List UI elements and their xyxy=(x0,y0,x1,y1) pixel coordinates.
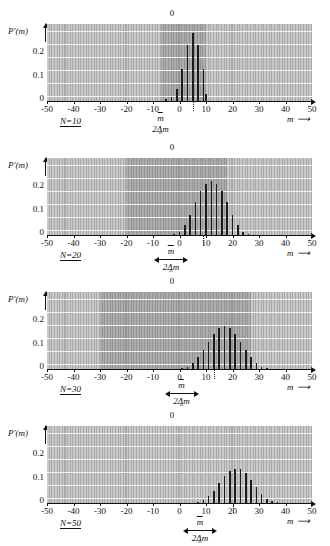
mean-label-3: m xyxy=(178,381,185,390)
y-tick-0-1: 0 xyxy=(18,93,44,103)
width-arrow-4 xyxy=(183,527,217,534)
bar xyxy=(234,469,236,503)
x-tick-label: 30 xyxy=(255,238,264,248)
panel-n30: 0 P′(m) 0.2 0.1 0 -50-40-30-20-100102030… xyxy=(0,268,330,402)
bar xyxy=(232,215,234,235)
bar xyxy=(245,473,247,503)
mean-label-4: m xyxy=(197,518,204,527)
bar xyxy=(256,487,258,503)
panel-label-1: N=10 xyxy=(60,116,81,127)
bar xyxy=(224,326,226,369)
top-zero-label-2: 0 xyxy=(170,142,175,152)
bar xyxy=(213,334,215,369)
bar xyxy=(224,476,226,503)
x-tick-label: -10 xyxy=(147,372,159,382)
bar xyxy=(250,357,252,369)
x-tick-label: 40 xyxy=(281,372,290,382)
bar xyxy=(184,225,186,235)
x-axis-arrow-1: ⟶ xyxy=(297,114,310,124)
x-tick-label: -20 xyxy=(121,104,133,114)
bar xyxy=(250,480,252,503)
x-tick-label: 20 xyxy=(228,104,237,114)
x-axis-arrow-3: ⟶ xyxy=(297,382,310,392)
bar xyxy=(240,469,242,503)
x-tick-label: -50 xyxy=(41,104,53,114)
x-tick-label: -30 xyxy=(94,238,106,248)
x-tick-label: 40 xyxy=(281,104,290,114)
x-tick-label: 50 xyxy=(308,506,317,516)
mean-label-1: m xyxy=(157,114,164,123)
bar xyxy=(189,215,191,235)
panel-label-4: N=50 xyxy=(60,518,81,529)
bar xyxy=(203,69,205,101)
x-tick-label: 0 xyxy=(177,506,182,516)
y-tick-0.2-1: 0.2 xyxy=(18,46,44,56)
y-tick-0.1-2: 0.1 xyxy=(18,204,44,214)
x-tick-label: 30 xyxy=(255,372,264,382)
bar xyxy=(176,89,178,101)
bar xyxy=(218,483,220,503)
top-zero-label-1: 0 xyxy=(170,8,175,18)
x-tick-label: -50 xyxy=(41,506,53,516)
bar xyxy=(208,342,210,370)
bar xyxy=(245,350,247,369)
bar xyxy=(205,184,207,235)
bar xyxy=(197,45,199,101)
panel-n10: 0 P′(m) 0.2 0.1 0 -50-40-30-20-100102030… xyxy=(0,0,330,134)
x-tick-label: 30 xyxy=(255,104,264,114)
y-tick-0-3: 0 xyxy=(18,361,44,371)
bar xyxy=(211,181,213,235)
x-tick-label: -30 xyxy=(94,372,106,382)
width-arrow-2 xyxy=(154,256,188,263)
bar xyxy=(205,94,207,101)
bar xyxy=(221,191,223,235)
panel-n50: 0 P′(m) 0.2 0.1 0 -50-40-30-20-100102030… xyxy=(0,402,330,537)
plot-area-2 xyxy=(47,158,312,235)
x-tick-label: -20 xyxy=(121,238,133,248)
bar-series-1 xyxy=(47,24,312,101)
bar xyxy=(200,191,202,235)
panel-label-2: N=20 xyxy=(60,250,81,261)
x-tick-label: 10 xyxy=(202,104,211,114)
y-axis-label-2: P′(m) xyxy=(8,160,28,170)
top-zero-label-3: 0 xyxy=(170,276,175,286)
bar xyxy=(216,184,218,235)
x-tick-label: -10 xyxy=(147,506,159,516)
x-tick-label: 10 xyxy=(202,372,211,382)
x-tick-label: 50 xyxy=(308,372,317,382)
x-tick-label: -40 xyxy=(68,238,80,248)
x-tick-label: 30 xyxy=(255,506,264,516)
bar xyxy=(192,33,194,101)
y-tick-0-2: 0 xyxy=(18,227,44,237)
bar xyxy=(187,45,189,101)
x-tick-label: 50 xyxy=(308,104,317,114)
panel-label-3: N=30 xyxy=(60,384,81,395)
x-tick-label: 50 xyxy=(308,238,317,248)
y-tick-0.1-4: 0.1 xyxy=(18,472,44,482)
width-arrow-3 xyxy=(165,390,199,397)
x-axis-arrow-4: ⟶ xyxy=(297,516,310,526)
x-axis-name-1: m xyxy=(287,114,294,124)
y-tick-0.1-1: 0.1 xyxy=(18,70,44,80)
bar-series-3 xyxy=(47,292,312,369)
mean-dotted-line xyxy=(233,504,235,513)
y-axis-label-4: P′(m) xyxy=(8,428,28,438)
x-tick-label: -40 xyxy=(68,104,80,114)
bar xyxy=(261,494,263,503)
x-tick-label: -40 xyxy=(68,372,80,382)
plot-area-3 xyxy=(47,292,312,369)
x-tick-label: 20 xyxy=(228,238,237,248)
x-axis-name-4: m xyxy=(287,516,294,526)
bar-series-2 xyxy=(47,158,312,235)
x-tick-label: -40 xyxy=(68,506,80,516)
y-tick-0.2-4: 0.2 xyxy=(18,448,44,458)
width-label-4: 2Δm≈ xyxy=(183,527,217,546)
x-tick-label: -20 xyxy=(121,506,133,516)
bar xyxy=(240,342,242,370)
bar xyxy=(234,334,236,369)
x-tick-label: 20 xyxy=(228,372,237,382)
y-axis-label-3: P′(m) xyxy=(8,294,28,304)
x-tick-label: 40 xyxy=(281,506,290,516)
y-tick-0.2-3: 0.2 xyxy=(18,314,44,324)
top-zero-label-4: 0 xyxy=(170,410,175,420)
